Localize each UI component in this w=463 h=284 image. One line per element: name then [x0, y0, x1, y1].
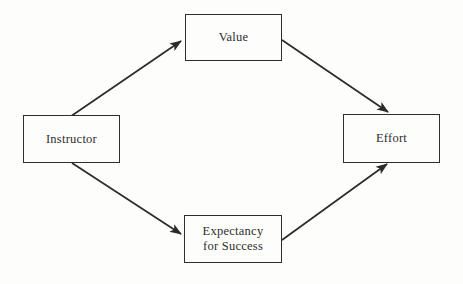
diagram-canvas: Instructor Value Effort Expectancy for S… — [0, 0, 463, 284]
arrow-instructor-to-expectancy — [72, 163, 181, 234]
node-effort-label: Effort — [376, 131, 407, 146]
node-instructor-label: Instructor — [46, 132, 97, 147]
arrow-expectancy-to-effort — [282, 164, 387, 240]
arrow-value-to-effort — [282, 40, 388, 112]
node-expectancy-label-line1: Expectancy — [203, 224, 264, 239]
node-value: Value — [185, 14, 282, 61]
node-value-label: Value — [219, 30, 249, 45]
arrow-instructor-to-value — [72, 41, 181, 116]
node-instructor: Instructor — [23, 115, 120, 163]
node-effort: Effort — [343, 114, 440, 163]
node-expectancy-label-line2: for Success — [203, 239, 263, 254]
node-expectancy-for-success: Expectancy for Success — [184, 215, 282, 263]
